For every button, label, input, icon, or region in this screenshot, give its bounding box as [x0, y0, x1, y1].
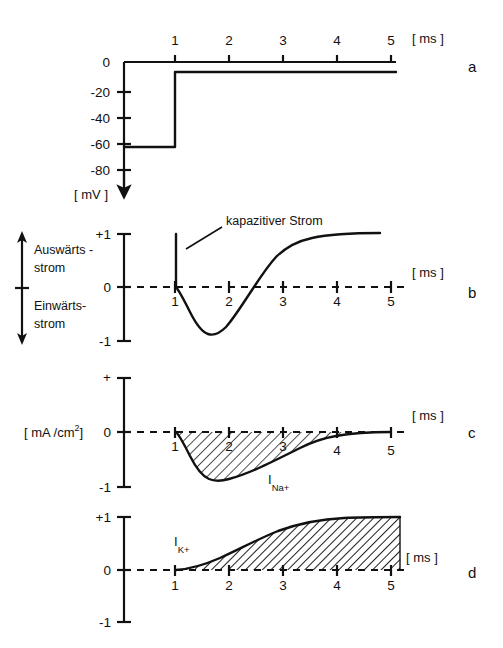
panel-b-total-current-curve	[176, 233, 380, 335]
panel-c-x-unit: [ ms ]	[412, 408, 444, 423]
panel-c-y-unit: [ mA /cm2]	[24, 423, 83, 440]
panel-b-ytick-label-m1: -1	[99, 334, 111, 349]
panel-b-xtick-label-3: 3	[279, 294, 287, 309]
panel-b-ytick-label-p1: +1	[96, 227, 111, 242]
panel-d-letter: d	[468, 564, 476, 581]
panel-a-xtick-label-4: 4	[333, 33, 341, 48]
panel-a-xtick-label-5: 5	[387, 33, 395, 48]
panel-b-letter: b	[468, 284, 476, 301]
panel-d-xtick-label-1: 1	[171, 578, 179, 593]
panel-c-xtick-label-1: 1	[171, 439, 179, 454]
panel-b-annotation-leader	[186, 227, 222, 249]
panel-b-outward-label-line1: Auswärts -	[34, 243, 93, 257]
panel-a-voltage-step-trace	[124, 72, 396, 147]
panel-a-ytick-label-m60: -60	[90, 137, 110, 152]
figure-canvas: 1 2 3 4 5 [ ms ] 0 -20 -40 -60 -80 [ mV …	[0, 0, 503, 648]
panel-a-xtick-label-1: 1	[171, 33, 179, 48]
panel-b-xtick-label-2: 2	[225, 294, 233, 309]
panel-b-xtick-label-4: 4	[333, 294, 341, 309]
panel-b-xtick-label-1: 1	[171, 294, 179, 309]
panel-c-current-label-sub: Na+	[272, 482, 290, 493]
panel-c-ytick-label-0: 0	[103, 425, 111, 440]
panel-c-current-label: INa+	[268, 472, 290, 493]
panel-c-ytick-label-plus: +	[103, 370, 111, 385]
panel-c-xtick-label-5: 5	[387, 443, 395, 458]
panel-d-xtick-label-3: 3	[279, 578, 287, 593]
panel-d-ytick-label-m1: -1	[99, 615, 111, 630]
panel-c-y-unit-pre: [ mA /cm	[24, 425, 75, 440]
panel-d-xtick-label-2: 2	[225, 578, 233, 593]
panel-c-xtick-label-3: 3	[279, 439, 287, 454]
panel-d-x-unit: [ ms ]	[406, 550, 438, 565]
panel-a-ytick-label-m40: -40	[90, 111, 110, 126]
panel-c-ytick-label-m1: -1	[99, 480, 111, 495]
panel-d-current-label: IK+	[174, 534, 190, 555]
panel-b-inward-label-line1: Einwärts-	[34, 299, 86, 313]
panel-c-letter: c	[468, 424, 476, 441]
panel-d-ytick-label-0: 0	[103, 563, 111, 578]
neurophysiology-figure: 1 2 3 4 5 [ ms ] 0 -20 -40 -60 -80 [ mV …	[0, 0, 503, 648]
panel-d-xtick-label-5: 5	[387, 578, 395, 593]
panel-b-inward-label-line2: strom	[34, 317, 65, 331]
panel-a-letter: a	[468, 58, 477, 75]
panel-c-xtick-label-2: 2	[225, 439, 233, 454]
panel-a-ytick-label-0: 0	[102, 55, 110, 70]
panel-a-ytick-label-m20: -20	[90, 85, 110, 100]
panel-a-xtick-label-2: 2	[225, 33, 233, 48]
panel-a-ytick-label-m80: -80	[90, 163, 110, 178]
panel-b-outward-label-line2: strom	[34, 261, 65, 275]
panel-b-x-unit: [ ms ]	[412, 265, 444, 280]
panel-b-ytick-label-0: 0	[103, 280, 111, 295]
panel-d-current-label-sub: K+	[178, 544, 190, 555]
panel-a-y-unit: [ mV ]	[74, 187, 108, 202]
panel-b-xtick-label-5: 5	[387, 294, 395, 309]
panel-a: 1 2 3 4 5 [ ms ] 0 -20 -40 -60 -80 [ mV …	[74, 31, 477, 202]
panel-c: + 0 -1 [ mA /cm2] 1 2 3 4 5 [ ms ] INa+ …	[24, 370, 476, 495]
panel-d-ytick-label-p1: +1	[96, 510, 111, 525]
panel-c-xtick-label-4: 4	[333, 443, 341, 458]
panel-a-x-unit: [ ms ]	[412, 31, 444, 46]
panel-b: +1 0 -1 1 2 3 4 5 [ ms ] kapazitiver Str…	[15, 214, 476, 349]
panel-a-xtick-label-3: 3	[279, 33, 287, 48]
panel-c-y-unit-post: ]	[80, 425, 84, 440]
panel-d-xtick-label-4: 4	[333, 578, 341, 593]
panel-b-annotation-label: kapazitiver Strom	[226, 214, 323, 228]
panel-d: +1 0 -1 1 2 3 4 5 [ ms ] IK+ d	[96, 510, 477, 630]
